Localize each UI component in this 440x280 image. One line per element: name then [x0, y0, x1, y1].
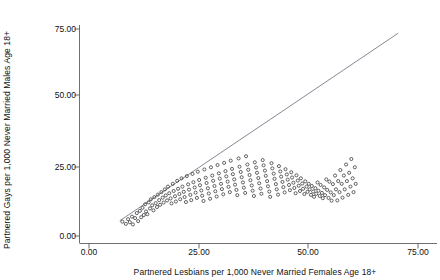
data-point — [131, 223, 134, 226]
data-point — [350, 157, 353, 160]
data-point — [329, 191, 332, 194]
x-axis-title: Partnered Lesbians per 1,000 Never Marri… — [85, 261, 425, 279]
data-point — [352, 191, 355, 194]
data-point — [166, 185, 169, 188]
data-point — [340, 182, 343, 185]
data-point — [234, 183, 237, 186]
data-point — [229, 159, 232, 162]
data-point — [240, 176, 243, 179]
data-point — [228, 191, 231, 194]
data-point — [270, 162, 273, 165]
data-point — [121, 220, 124, 223]
data-point — [277, 165, 280, 168]
y-tick-label-group: 0.00 25.00 50.00 75.00 — [28, 0, 76, 280]
data-point — [286, 178, 289, 181]
y-tick-label-1: 25.00 — [32, 162, 76, 172]
data-point — [264, 174, 267, 177]
data-point — [247, 168, 250, 171]
data-point — [320, 191, 323, 194]
data-point — [304, 180, 307, 183]
data-point — [288, 189, 291, 192]
data-point — [170, 202, 173, 205]
data-point — [241, 181, 244, 184]
data-point — [312, 190, 315, 193]
data-point — [274, 183, 277, 186]
data-point — [164, 194, 167, 197]
data-point — [342, 174, 345, 177]
data-point — [291, 176, 294, 179]
data-point — [236, 194, 239, 197]
scatter-plot-figure: Partnered Gays per 1,000 Never Married M… — [0, 0, 440, 280]
data-point — [162, 201, 165, 204]
data-point — [307, 182, 310, 185]
x-tick-label-3: 75.00 — [393, 247, 440, 257]
data-point — [224, 170, 227, 173]
data-point — [277, 193, 280, 196]
data-point — [179, 198, 182, 201]
data-point — [206, 187, 209, 190]
data-point — [223, 161, 226, 164]
data-point — [319, 183, 322, 186]
tick-marks — [75, 29, 419, 249]
data-point — [326, 188, 329, 191]
data-point — [250, 184, 253, 187]
data-point — [269, 195, 272, 198]
data-point — [137, 220, 140, 223]
y-tick-label-3: 75.00 — [32, 24, 76, 34]
data-point — [315, 192, 318, 195]
data-point — [279, 170, 282, 173]
reference-line-segment — [120, 33, 399, 221]
data-point — [321, 197, 324, 200]
data-point — [190, 199, 193, 202]
x-tick-label-2: 50.00 — [283, 247, 333, 257]
data-point — [271, 167, 274, 170]
data-point — [317, 189, 320, 192]
data-point — [187, 183, 190, 186]
data-point — [268, 190, 271, 193]
data-point — [285, 173, 288, 176]
data-point — [332, 194, 335, 197]
data-points — [121, 155, 357, 226]
data-point — [172, 189, 175, 192]
data-point — [260, 192, 263, 195]
data-point — [198, 184, 201, 187]
data-point — [275, 188, 278, 191]
data-point — [252, 194, 255, 197]
x-tick-label-1: 25.00 — [174, 247, 224, 257]
data-point — [242, 186, 245, 189]
data-point — [124, 222, 127, 225]
data-point — [336, 199, 339, 202]
data-point — [152, 209, 155, 212]
data-point — [273, 177, 276, 180]
data-point — [138, 209, 141, 212]
data-point — [308, 188, 311, 191]
data-point — [219, 182, 222, 185]
data-point — [182, 190, 185, 193]
data-point — [239, 170, 242, 173]
data-point — [130, 215, 133, 218]
data-point — [261, 159, 264, 162]
data-point — [347, 193, 350, 196]
data-point — [328, 180, 331, 183]
data-point — [249, 179, 252, 182]
data-point — [217, 172, 220, 175]
data-point — [193, 186, 196, 189]
data-point — [325, 178, 328, 181]
y-tick-label-0: 0.00 — [32, 231, 76, 241]
data-point — [298, 189, 301, 192]
data-point — [154, 202, 157, 205]
data-point — [323, 194, 326, 197]
data-point — [194, 191, 197, 194]
data-point — [283, 191, 286, 194]
data-point — [226, 180, 229, 183]
data-point — [272, 172, 275, 175]
data-point — [178, 193, 181, 196]
data-point — [134, 217, 137, 220]
data-point — [166, 199, 169, 202]
data-point — [174, 200, 177, 203]
data-point — [201, 194, 204, 197]
data-point — [334, 188, 337, 191]
data-point — [237, 157, 240, 160]
data-point — [330, 199, 333, 202]
data-point — [161, 196, 164, 199]
